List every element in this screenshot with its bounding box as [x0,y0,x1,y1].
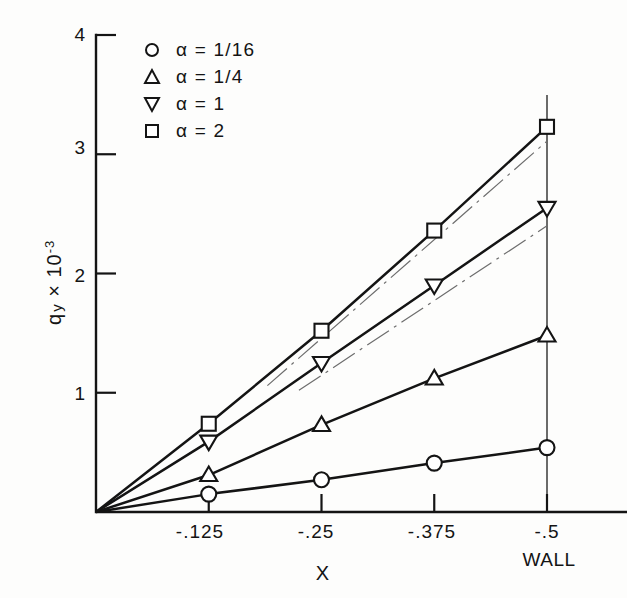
marker-square-3-4[interactable] [540,120,554,134]
legend-item-0[interactable]: α = 1/16 [142,36,255,63]
legend-triangle-down-icon [145,98,159,111]
legend-symbol-triangle-up [142,67,162,87]
figure-container: 4 3 2 1 -.125 -.25 -.375 -.5 WALL X qy ×… [0,0,627,598]
legend-item-1[interactable]: α = 1/4 [142,63,255,90]
y-axis-title-multiplier: × 10 [43,253,65,296]
marker-triangle-down-2-2[interactable] [313,357,330,372]
legend-square-icon [146,125,158,137]
marker-triangle-down-2-4[interactable] [539,202,556,217]
marker-square-3-3[interactable] [427,224,441,238]
xtick-label-0: -.125 [176,521,224,543]
y-axis-title: qy × 10-3 [42,212,67,352]
y-axis-title-base: q [43,313,65,325]
xtick-label-3: -.5 [534,521,559,543]
reference-lines-group [267,141,547,390]
series-line-3[interactable] [96,127,547,512]
legend-triangle-up-icon [145,70,159,83]
legend-symbol-square [142,121,162,141]
reference-line-1 [299,226,547,391]
marker-circle-0-3[interactable] [427,456,442,471]
legend-item-2[interactable]: α = 1 [142,90,255,117]
ytick-label-1: 1 [58,383,86,405]
legend: α = 1/16α = 1/4α = 1α = 2 [142,36,255,144]
legend-symbol-wrapper-3 [142,121,168,141]
legend-circle-icon [146,44,158,56]
marker-circle-0-1[interactable] [201,487,216,502]
legend-label-1: α = 1/4 [168,66,243,88]
y-axis-title-exponent: -3 [42,240,57,254]
legend-symbol-triangle-down [142,94,162,114]
marker-circle-0-4[interactable] [540,440,555,455]
marker-triangle-down-2-3[interactable] [426,279,443,294]
ytick-label-4: 4 [58,24,86,46]
xtick-label-2: -.375 [408,521,456,543]
marker-circle-0-2[interactable] [314,472,329,487]
marker-triangle-down-2-1[interactable] [200,436,217,451]
legend-symbol-wrapper-0 [142,40,168,60]
marker-square-3-1[interactable] [202,417,216,431]
reference-line-0 [267,141,547,385]
xtick-label-1: -.25 [298,521,335,543]
legend-item-3[interactable]: α = 2 [142,117,255,144]
x-axis-title: X [316,562,330,585]
marker-triangle-up-1-4[interactable] [539,327,556,342]
legend-label-0: α = 1/16 [168,39,255,61]
legend-symbol-circle [142,40,162,60]
wall-annotation-label: WALL [522,549,575,571]
marker-triangle-up-1-1[interactable] [200,467,217,482]
marker-square-3-2[interactable] [315,324,329,338]
legend-label-2: α = 1 [168,93,225,115]
plot-canvas [0,0,627,598]
legend-label-3: α = 2 [168,120,225,142]
legend-symbol-wrapper-1 [142,67,168,87]
ytick-label-3: 3 [58,137,86,159]
legend-symbol-wrapper-2 [142,94,168,114]
y-axis-title-subscript: y [47,303,64,313]
data-series-group [96,120,556,512]
